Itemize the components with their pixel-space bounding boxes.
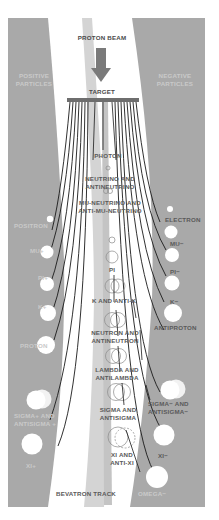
xi-plus-circle (22, 434, 43, 455)
positive-heading-line2: PARTICLES (12, 80, 56, 88)
antiproton-label: ANTIPROTON (154, 324, 197, 332)
electron-label: ELECTRON (165, 216, 201, 224)
xi-label-2: ANTI-XI (104, 459, 140, 467)
antiproton-circle (164, 304, 182, 322)
proton-label: PROTON (20, 342, 48, 350)
sigma-plus-label-2: ANTISIGMA + (14, 420, 56, 428)
omega-minus-label: OMEGA− (138, 490, 166, 498)
k-plus-label: K+ (38, 303, 46, 311)
pi-minus-circle (165, 248, 179, 262)
mu-minus-label: MU− (170, 240, 184, 248)
neutron-label-1: NEUTRON AND (84, 329, 146, 337)
lambda-label-1: LAMBDA AND (88, 366, 146, 374)
electron-circle (167, 206, 173, 212)
positive-heading-line1: POSITIVE (12, 72, 56, 80)
particle-diagram: PROTON BEAM TARGET POSITIVE PARTICLES NE… (0, 0, 219, 520)
sigma-minus-circle-b (167, 380, 186, 399)
negative-heading-line1: NEGATIVE (150, 72, 200, 80)
target-bar (67, 98, 139, 102)
mu-plus-label: MU+ (30, 247, 44, 255)
target-label: TARGET (84, 88, 120, 96)
positron-label: POSITRON (14, 222, 48, 230)
k-minus-label: K− (170, 298, 178, 306)
neutrino-label-2: ANTINEUTRINO (75, 183, 145, 191)
lambda-label-2: ANTILAMBDA (88, 374, 146, 382)
negative-heading-line2: PARTICLES (150, 80, 200, 88)
pi-zero-label: PI (104, 266, 120, 274)
proton-beam-label: PROTON BEAM (72, 34, 132, 42)
mu-minus-circle (165, 226, 178, 239)
xi-minus-label: XI− (158, 452, 168, 460)
sigma-minus-label-2: ANTISIGMA− (148, 408, 188, 416)
sigma-plus-circle-b (33, 390, 52, 409)
positive-particles-panel (8, 18, 64, 507)
omega-minus-circle (146, 466, 168, 488)
pi-plus-label: PI+ (38, 274, 48, 282)
sigma-label-2: ANTISIGMA (92, 414, 144, 422)
neutrino-label-1: NEUTRINO AND (75, 175, 145, 183)
sigma-label-1: SIGMA AND (92, 406, 144, 414)
mu-neutrino-label-1: MU-NEUTRINO AND (68, 199, 152, 207)
sigma-plus-label-1: SIGMA+ AND (14, 412, 55, 420)
photon-label: PHOTON (88, 152, 128, 160)
pi-minus-label: PI− (170, 268, 180, 276)
mu-neutrino-label-2: ANTI-MU-NEUTRINO (68, 207, 152, 215)
bevatron-track-label: BEVATRON TRACK (50, 490, 122, 498)
kaon-label: K AND ANTI-K (84, 297, 144, 305)
xi-label-1: XI AND (104, 451, 140, 459)
k-minus-circle (165, 276, 180, 291)
xi-minus-circle (154, 425, 175, 446)
neutron-label-2: ANTINEUTRON (84, 337, 146, 345)
sigma-minus-label-1: SIGMA− AND (148, 400, 189, 408)
xi-plus-label: XI+ (26, 462, 36, 470)
